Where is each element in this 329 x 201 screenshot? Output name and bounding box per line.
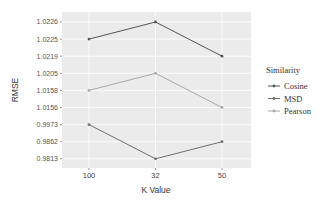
x-tick-label: 32 <box>151 171 159 180</box>
data-point-pearson <box>154 72 157 75</box>
y-tick-label: 1.0219 <box>37 53 59 60</box>
rmse-line-chart: 1.02261.02251.02191.02051.01581.01560.99… <box>0 0 329 201</box>
data-point-msd <box>154 157 157 160</box>
legend-label-msd: MSD <box>284 94 302 104</box>
legend-key-point <box>273 85 276 88</box>
legend-label-pearson: Pearson <box>284 106 312 116</box>
x-tick-label: 100 <box>83 171 96 180</box>
legend-key-point <box>273 97 276 100</box>
legend-title: Similarity <box>266 65 301 75</box>
data-point-msd <box>88 123 91 126</box>
y-tick-label: 1.0205 <box>37 70 59 77</box>
y-axis-title: RMSE <box>10 77 20 102</box>
data-point-cosine <box>88 38 91 41</box>
data-point-cosine <box>221 55 224 58</box>
y-tick-label: 1.0226 <box>37 18 59 25</box>
data-point-cosine <box>154 21 157 24</box>
y-tick-label: 0.9973 <box>37 121 59 128</box>
data-point-pearson <box>88 89 91 92</box>
legend: CosineMSDPearson <box>268 81 312 116</box>
y-tick-label: 0.9813 <box>37 155 59 162</box>
data-point-msd <box>221 140 224 143</box>
x-axis-ticks: 1003250 <box>83 168 226 180</box>
y-tick-label: 0.9862 <box>37 138 59 145</box>
x-axis-title: K Value <box>141 185 170 195</box>
legend-label-cosine: Cosine <box>284 81 308 91</box>
data-point-pearson <box>221 106 224 109</box>
y-axis-ticks: 1.02261.02251.02191.02051.01581.01560.99… <box>37 18 62 162</box>
x-tick-label: 50 <box>218 171 226 180</box>
legend-key-point <box>273 110 276 113</box>
y-tick-label: 1.0225 <box>37 36 59 43</box>
y-tick-label: 1.0158 <box>37 87 59 94</box>
y-tick-label: 1.0156 <box>37 104 59 111</box>
